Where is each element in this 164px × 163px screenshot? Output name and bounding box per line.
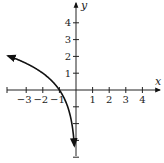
x-axis-label: x [155, 75, 162, 88]
x-tick-label: 2 [106, 94, 112, 105]
x-tick-label: 1 [89, 94, 95, 105]
x-tick-label: 3 [123, 94, 129, 105]
y-tick-label: 2 [65, 51, 71, 62]
y-tick-label: 4 [65, 17, 71, 28]
x-tick-label: −3 [17, 94, 32, 105]
axes: −3−2−112341234 [7, 3, 160, 157]
chart-canvas: −3−2−112341234 x y [0, 0, 164, 163]
x-tick-label: 4 [139, 94, 145, 105]
y-axis-label: y [80, 0, 88, 12]
y-tick-label: 3 [65, 34, 71, 45]
x-tick-label: −2 [33, 94, 48, 105]
y-tick-label: 1 [65, 68, 71, 79]
